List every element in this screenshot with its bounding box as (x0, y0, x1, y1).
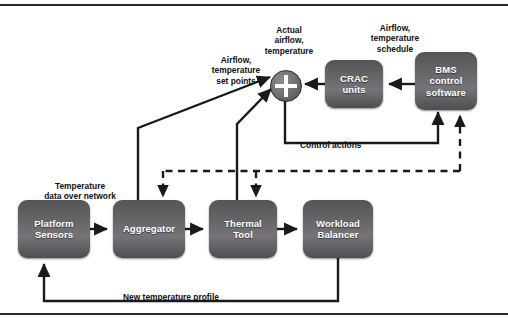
node-aggregator-label: Aggregator (123, 223, 175, 235)
frame-top-rule (0, 4, 508, 6)
node-bms-control-software[interactable]: BMS control software (415, 52, 477, 110)
plus-icon-horizontal-stroke (275, 84, 297, 88)
frame-bottom-rule (0, 313, 508, 315)
node-crac-units-label: CRAC units (340, 73, 368, 96)
node-workload-balancer-label: Workload Balancer (316, 218, 360, 241)
node-crac-units[interactable]: CRAC units (325, 60, 383, 108)
caption-text: Airflow, temperature schedule (371, 23, 419, 54)
diagram-canvas: Platform Sensors Aggregator Thermal Tool… (0, 0, 508, 321)
node-workload-balancer[interactable]: Workload Balancer (303, 200, 373, 258)
node-platform-sensors-label: Platform Sensors (34, 218, 73, 241)
caption-text: Temperature data over network (44, 181, 116, 202)
node-bms-control-software-label: BMS control software (426, 64, 466, 99)
caption-temperature-data-over-network: Temperature data over network (24, 170, 136, 202)
edge-thermal-to-summing (237, 89, 271, 200)
caption-text: Control actions (300, 140, 361, 150)
caption-text: Actual airflow, temperature (265, 25, 313, 56)
caption-text: New temperature profile (123, 292, 219, 302)
node-thermal-tool[interactable]: Thermal Tool (209, 200, 277, 258)
edge-aggregator-to-summing (138, 77, 270, 200)
node-platform-sensors[interactable]: Platform Sensors (18, 200, 90, 258)
node-aggregator[interactable]: Aggregator (113, 200, 185, 258)
caption-actual-airflow-temperature: Actual airflow, temperature (249, 14, 329, 56)
caption-text: Airflow, temperature set points (212, 55, 260, 86)
caption-control-actions: Control actions (300, 129, 400, 150)
caption-airflow-temperature-schedule: Airflow, temperature schedule (355, 12, 435, 54)
caption-new-temperature-profile: New temperature profile (101, 281, 241, 302)
node-thermal-tool-label: Thermal Tool (224, 218, 262, 241)
